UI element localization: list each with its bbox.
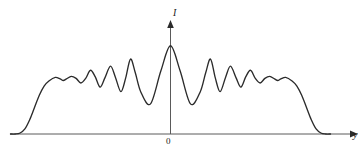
y-axis-label: I	[173, 8, 176, 18]
arrow-up-icon	[167, 20, 174, 28]
origin-tick-label: 0	[166, 137, 171, 146]
x-axis-label: y	[353, 130, 357, 140]
x-axis	[10, 131, 358, 138]
plot-canvas	[0, 0, 363, 155]
diffraction-intensity-figure: I y 0	[0, 0, 363, 155]
y-axis	[167, 20, 174, 134]
